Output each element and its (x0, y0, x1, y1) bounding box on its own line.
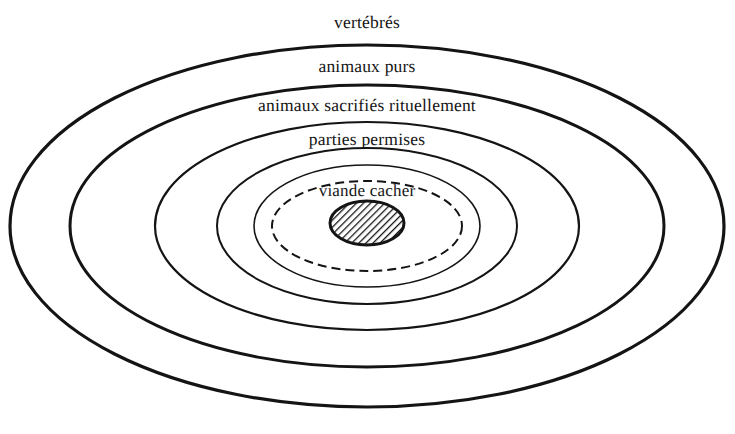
concentric-ellipse-diagram: vertébrés animaux purs animaux sacrifiés… (0, 0, 735, 434)
ring-label-parties-permises: parties permises (309, 129, 425, 150)
core-hatched-ellipse (330, 201, 404, 245)
ring-label-vertebres: vertébrés (334, 12, 400, 33)
ring-label-viande-cacher: viande cacher (319, 181, 416, 201)
ring-label-animaux-purs: animaux purs (318, 56, 415, 77)
ring-label-animaux-sacrifies: animaux sacrifiés rituellement (258, 95, 476, 116)
